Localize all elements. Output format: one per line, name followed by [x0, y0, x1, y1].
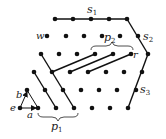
path-segment	[70, 54, 113, 72]
lattice-dot	[61, 88, 66, 93]
lattice-dot	[25, 88, 30, 93]
lattice-dot	[57, 52, 62, 57]
lattice-dot	[68, 70, 73, 75]
lattice-dot	[104, 70, 109, 75]
lattice-dot	[136, 34, 141, 39]
lattice-dot	[97, 88, 102, 93]
lattice-dot	[89, 17, 94, 22]
triangle-edge	[27, 90, 38, 108]
lattice-dot	[50, 70, 55, 75]
path-segment	[52, 54, 95, 72]
lattice-dot	[53, 17, 58, 22]
lattice-diagram: s1 s2 s3 p2 p1 w r a b e	[0, 0, 166, 139]
lattice-dot	[146, 52, 151, 57]
lattice-dot	[115, 88, 120, 93]
label-a: a	[27, 109, 33, 120]
lattice-dot	[36, 106, 41, 111]
label-s3: s3	[140, 83, 150, 97]
lattice-dot	[90, 106, 95, 111]
label-s2: s2	[143, 30, 153, 44]
lattice-dot	[111, 52, 116, 57]
lattice-dot	[79, 88, 84, 93]
lattice-dot	[86, 70, 91, 75]
lattice-dot	[118, 34, 123, 39]
lattice-dot	[122, 70, 127, 75]
lattice-dot	[126, 106, 131, 111]
lattice-dot	[39, 52, 44, 57]
lattice-dot	[45, 34, 50, 39]
label-p2: p2	[104, 31, 116, 45]
lattice-dot	[71, 17, 76, 22]
lattice-dot	[93, 52, 98, 57]
label-p1: p1	[51, 120, 63, 134]
label-w: w	[36, 30, 45, 41]
path-segments	[34, 19, 148, 108]
triangle-abe	[20, 90, 38, 108]
lattice-dot	[134, 88, 139, 93]
path-segment	[88, 54, 131, 72]
lattice-dot	[140, 70, 145, 75]
path-segment	[128, 54, 148, 108]
label-b: b	[16, 89, 22, 100]
path-segment	[41, 54, 74, 108]
label-e: e	[10, 102, 16, 113]
label-r: r	[133, 49, 139, 60]
lattice-dot	[75, 52, 80, 57]
lattice-dot	[54, 106, 59, 111]
lattice-dot	[32, 70, 37, 75]
lattice-dot	[64, 34, 69, 39]
lattice-dot	[125, 17, 130, 22]
lattice-dot	[18, 106, 23, 111]
lattice-dot	[72, 106, 77, 111]
lattice-dot	[82, 34, 87, 39]
lattice-dot	[108, 106, 113, 111]
lattice-dot	[107, 17, 112, 22]
lattice-dot	[43, 88, 48, 93]
label-s1: s1	[87, 3, 97, 17]
